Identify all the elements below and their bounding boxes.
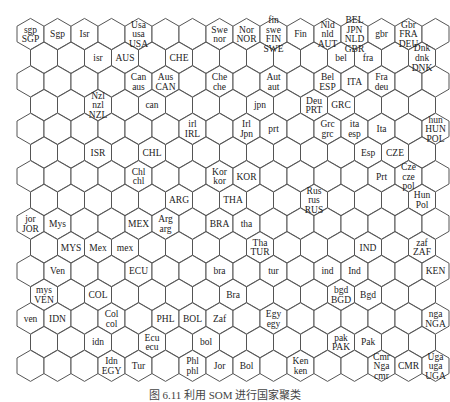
country-label: nzl	[92, 100, 104, 110]
country-label: phl	[186, 366, 199, 376]
country-label: Esp	[361, 148, 376, 158]
country-label: BRA	[210, 219, 230, 229]
country-label: Kor	[212, 167, 228, 177]
country-label: Nzl	[91, 91, 105, 101]
country-label: uga	[429, 361, 444, 371]
country-label: Sgp	[50, 29, 65, 39]
country-label: Usa	[131, 20, 147, 30]
country-label: Gbr	[401, 20, 417, 30]
country-label: Bel	[321, 72, 335, 82]
country-label: cmr	[374, 371, 390, 381]
country-label: THA	[223, 195, 243, 205]
country-label: Tha	[253, 238, 269, 248]
country-label: Jor	[214, 361, 226, 371]
country-label: zaf	[416, 238, 428, 248]
country-label: rus	[308, 195, 320, 205]
country-label: IDN	[49, 314, 66, 324]
country-label: egy	[267, 319, 281, 329]
country-label: ven	[24, 314, 38, 324]
country-label: cze	[402, 172, 415, 182]
country-label: Phl	[186, 356, 199, 366]
country-label: jpn	[253, 100, 266, 110]
country-label: UGA	[425, 371, 446, 381]
country-label: bra	[213, 266, 226, 276]
country-label: COL	[89, 290, 108, 300]
country-label: JOR	[22, 224, 40, 234]
country-label: Fra	[375, 72, 388, 82]
country-label: ECU	[129, 266, 148, 276]
country-label: prt	[268, 124, 279, 134]
figure-caption: 图 6.11 利用 SOM 进行国家聚类	[0, 386, 450, 402]
country-label: Grc	[320, 119, 334, 129]
country-label: Nga	[374, 361, 391, 371]
country-label: NZL	[89, 110, 108, 120]
country-label: ZAF	[413, 247, 431, 257]
country-label: Pol	[416, 200, 429, 210]
country-label: HUN	[425, 124, 446, 134]
country-label: Che	[212, 72, 227, 82]
country-label: bol	[200, 337, 213, 347]
country-label: Egy	[266, 309, 282, 319]
country-label: AUT	[318, 39, 338, 49]
country-label: che	[213, 82, 226, 92]
country-label: sgp	[24, 25, 37, 35]
country-label: Zaf	[213, 314, 227, 324]
country-label: Rus	[307, 186, 322, 196]
country-label: grc	[321, 129, 333, 139]
country-label: VEN	[34, 295, 54, 305]
country-label: esp	[348, 129, 361, 139]
country-label: Bra	[226, 290, 241, 300]
country-label: ISR	[91, 148, 106, 158]
country-label: Hun	[414, 190, 431, 200]
country-label: SWE	[263, 44, 283, 54]
country-label: ITA	[347, 77, 362, 87]
country-label: SGP	[22, 34, 39, 44]
country-label: TUR	[251, 247, 271, 257]
country-label: IRL	[185, 129, 201, 139]
country-label: PRT	[306, 105, 323, 115]
country-label: hun	[428, 115, 443, 125]
country-label: Nld	[320, 20, 335, 30]
country-label: Bgd	[360, 290, 376, 300]
country-label: tur	[268, 266, 279, 276]
country-label: PHL	[157, 314, 175, 324]
country-label: GRC	[331, 100, 351, 110]
country-label: idn	[92, 337, 104, 347]
country-label: NGA	[425, 319, 446, 329]
country-label: MEX	[128, 219, 149, 229]
country-label: CHE	[170, 53, 189, 63]
country-label: deu	[375, 82, 389, 92]
country-label: NLD	[345, 34, 365, 44]
country-label: IND	[360, 243, 377, 253]
country-label: BGD	[331, 295, 351, 305]
country-label: Nor	[239, 25, 255, 35]
country-label: isr	[93, 53, 103, 63]
country-label: Mex	[89, 243, 107, 253]
country-label: Dnk	[414, 43, 431, 53]
country-label: dnk	[415, 53, 430, 63]
country-label: jor	[24, 214, 36, 224]
country-label: Col	[105, 309, 119, 319]
country-label: POL	[427, 134, 445, 144]
country-label: fin	[268, 15, 279, 25]
country-label: Can	[131, 72, 147, 82]
country-label: Aus	[158, 72, 174, 82]
country-label: gbr	[375, 29, 389, 39]
country-label: CZE	[386, 148, 404, 158]
country-label: Chl	[132, 167, 146, 177]
country-label: arg	[160, 224, 172, 234]
country-label: Idn	[105, 356, 118, 366]
country-label: fra	[363, 53, 374, 63]
country-label: kor	[213, 176, 227, 186]
country-label: Ecu	[145, 333, 160, 343]
country-label: FIN	[266, 34, 281, 44]
country-label: Isr	[79, 29, 90, 39]
country-label: Deu	[306, 96, 322, 106]
country-label: NOR	[236, 34, 257, 44]
country-label: CHL	[143, 148, 162, 158]
country-label: irl	[188, 119, 197, 129]
country-label: KOR	[236, 172, 257, 182]
country-label: Cze	[401, 162, 416, 172]
country-label: BEL	[346, 15, 364, 25]
